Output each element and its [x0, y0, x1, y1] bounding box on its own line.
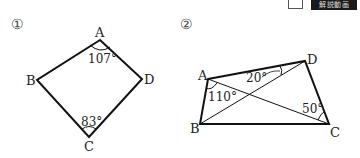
angle-label-acd: 50°: [302, 103, 323, 115]
vertex-label-a1: A: [95, 26, 104, 39]
vertex-label-d2: D: [307, 53, 317, 66]
angle-label-adb: 20°: [246, 72, 267, 84]
vertex-label-c2: C: [330, 126, 340, 139]
angle-label-a1: 107°: [88, 53, 117, 65]
problem-number-2: ②: [180, 17, 193, 31]
vertex-label-b2: B: [190, 122, 200, 135]
vertex-label-d1: D: [144, 73, 154, 86]
vertex-label-a2: A: [198, 69, 207, 82]
vertex-label-b1: B: [26, 74, 36, 87]
angle-arc-d2: [280, 66, 282, 75]
vertex-label-c1: C: [84, 140, 94, 153]
angle-label-bac: 110°: [208, 91, 237, 103]
angle-label-c1: 83°: [81, 116, 102, 128]
problem-number-1: ①: [11, 17, 24, 31]
